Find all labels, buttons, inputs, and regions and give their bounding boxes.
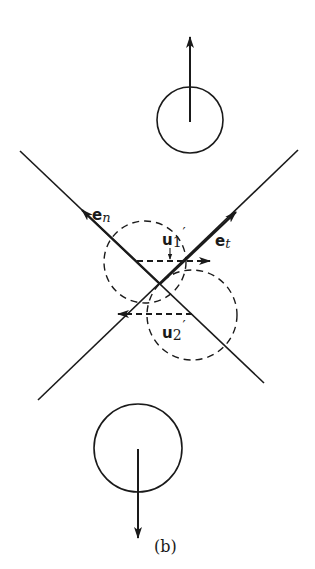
top-particle xyxy=(157,37,223,153)
figure-caption: (b) xyxy=(154,537,177,556)
axes xyxy=(20,150,298,400)
u2-prime-label: u2′ xyxy=(162,318,186,343)
bottom-particle xyxy=(94,404,182,538)
collision-diagram: en et u1′ u2′ (b) xyxy=(0,0,315,569)
en-label: en xyxy=(92,206,111,225)
et-label: et xyxy=(215,232,231,251)
